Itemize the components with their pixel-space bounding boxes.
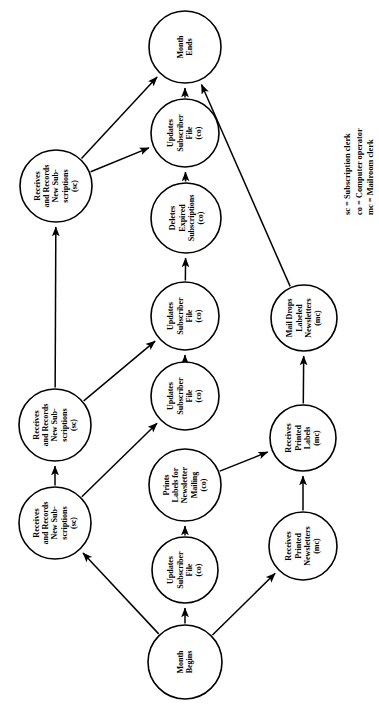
node-receives-records-1[interactable] bbox=[19, 487, 91, 559]
node-deletes-expired[interactable] bbox=[151, 183, 221, 253]
edge-month-begins-to-receives-newsletters bbox=[212, 573, 275, 635]
diagram-canvas bbox=[0, 0, 379, 713]
edge-mail-drops-to-month-ends bbox=[201, 85, 290, 287]
edge-month-begins-to-receives-records-1 bbox=[83, 553, 159, 634]
edge-receives-records-2-to-receives-records-3 bbox=[55, 227, 56, 388]
node-updates-sub-file-3[interactable] bbox=[151, 282, 219, 350]
node-updates-sub-file-4[interactable] bbox=[151, 99, 219, 167]
legend-line-2: co = Computer operator bbox=[354, 128, 366, 215]
node-month-ends[interactable] bbox=[149, 11, 221, 83]
edge-receives-records-2-to-updates-sub-file-3 bbox=[84, 341, 155, 401]
node-receives-records-2[interactable] bbox=[19, 389, 91, 461]
legend-line-1: sc = Subscription clerk bbox=[342, 128, 354, 215]
edge-receives-records-1-to-updates-sub-file-2 bbox=[82, 423, 157, 497]
node-receives-records-3[interactable] bbox=[20, 150, 92, 222]
node-receives-newsletters[interactable] bbox=[269, 512, 337, 580]
node-prints-labels[interactable] bbox=[149, 449, 221, 521]
activity-network-diagram: Month BeginsUpdates Subscriber File (co)… bbox=[0, 0, 379, 713]
node-updates-sub-file-2[interactable] bbox=[151, 362, 219, 430]
legend-line-3: mc = Mailroom clerk bbox=[365, 128, 377, 215]
edge-receives-records-3-to-updates-sub-file-4 bbox=[91, 148, 149, 172]
nodes-layer bbox=[19, 11, 337, 699]
node-month-begins[interactable] bbox=[148, 625, 222, 699]
node-updates-sub-file-1[interactable] bbox=[152, 537, 218, 603]
edge-prints-labels-to-receives-labels bbox=[220, 452, 268, 471]
legend: sc = Subscription clerkco = Computer ope… bbox=[342, 128, 377, 215]
node-receives-labels[interactable] bbox=[270, 405, 336, 471]
node-mail-drops[interactable] bbox=[271, 285, 337, 351]
edge-receives-records-3-to-month-ends bbox=[82, 77, 158, 158]
